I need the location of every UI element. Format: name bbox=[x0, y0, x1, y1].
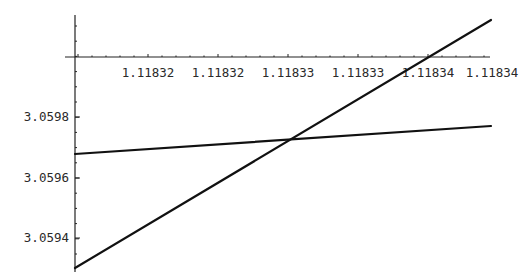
shallow-line-series bbox=[75, 126, 491, 154]
x-tick-label: 1.11832 bbox=[192, 65, 245, 80]
line-chart: 1.11832 1.11832 1.11833 1.11833 1.11834 … bbox=[0, 0, 525, 279]
y-tick-label: 3.0598 bbox=[24, 109, 69, 124]
x-tick-label: 1.11832 bbox=[122, 65, 175, 80]
axes bbox=[65, 15, 490, 272]
y-ticks bbox=[75, 26, 80, 254]
y-tick-labels: 3.0598 3.0596 3.0594 bbox=[24, 109, 69, 245]
y-tick-label: 3.0596 bbox=[24, 170, 69, 185]
x-tick-label: 1.11833 bbox=[332, 65, 385, 80]
y-tick-label: 3.0594 bbox=[24, 230, 69, 245]
x-tick-label: 1.11834 bbox=[466, 65, 519, 80]
x-tick-label: 1.11833 bbox=[262, 65, 315, 80]
x-tick-label: 1.11834 bbox=[402, 65, 455, 80]
x-tick-labels: 1.11832 1.11832 1.11833 1.11833 1.11834 … bbox=[122, 65, 519, 80]
